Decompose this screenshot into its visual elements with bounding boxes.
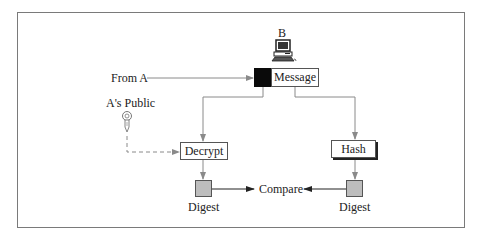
connector-lines bbox=[0, 0, 480, 240]
digest-right-label: Digest bbox=[339, 200, 370, 214]
key-icon bbox=[121, 111, 133, 135]
computer-icon bbox=[271, 39, 297, 64]
compare-label: Compare bbox=[259, 182, 303, 196]
hash-label: Hash bbox=[341, 142, 366, 157]
message-to-hash-line bbox=[295, 87, 355, 139]
message-label: Message bbox=[274, 70, 316, 85]
decrypt-label: Decrypt bbox=[185, 144, 224, 159]
message-box: Message bbox=[271, 68, 319, 87]
digest-left-square bbox=[195, 180, 212, 197]
from-a-label: From A bbox=[111, 71, 148, 85]
public-key-label: A's Public bbox=[106, 96, 155, 110]
signature-to-decrypt-line bbox=[203, 87, 263, 141]
digest-right-square bbox=[346, 180, 363, 197]
decrypt-box: Decrypt bbox=[180, 142, 228, 160]
receiver-label: B bbox=[278, 26, 286, 40]
key-to-decrypt-dashed-line bbox=[127, 136, 179, 152]
digest-left-label: Digest bbox=[188, 200, 219, 214]
signature-block bbox=[254, 68, 272, 87]
hash-box: Hash bbox=[331, 140, 376, 158]
